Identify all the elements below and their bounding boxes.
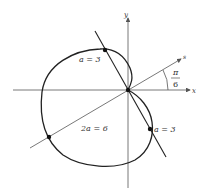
rotated-axis xyxy=(30,59,181,148)
rotated-axis-label: s xyxy=(183,53,186,60)
cardioid-diagram: y x s π 6 a = 3 a = 3 2a = 6 xyxy=(0,0,207,194)
origin-point xyxy=(126,88,130,92)
upper-point xyxy=(103,48,107,52)
upper-point-label: a = 3 xyxy=(79,55,101,64)
lower-left-point xyxy=(47,135,51,139)
lower-right-point xyxy=(148,127,152,131)
x-axis-label: x xyxy=(192,87,196,95)
angle-arc xyxy=(163,70,168,90)
diameter-label: 2a = 6 xyxy=(80,124,108,133)
angle-denominator: 6 xyxy=(173,80,178,89)
angle-numerator: π xyxy=(172,68,179,77)
y-axis-label: y xyxy=(123,11,129,19)
lower-point-label: a = 3 xyxy=(154,125,176,134)
cardioid-curve xyxy=(41,49,152,166)
